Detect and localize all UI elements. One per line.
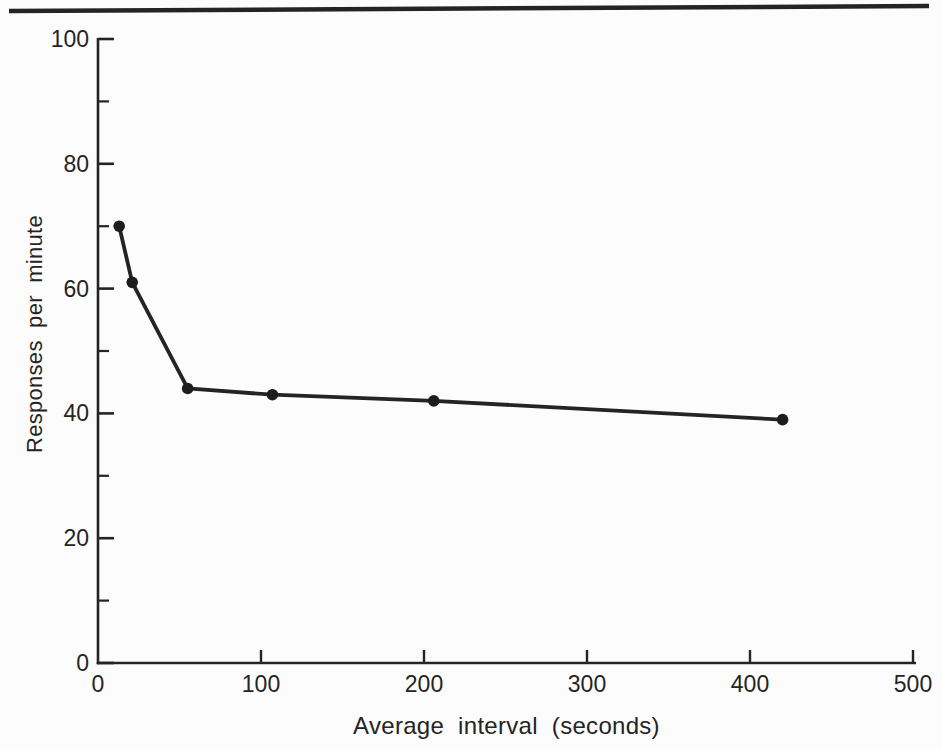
y-tick-label: 60 [63,276,89,302]
x-tick-label: 500 [894,671,932,697]
x-axis-title: Average interval (seconds) [98,712,915,740]
y-tick-label: 80 [63,151,89,177]
data-point [777,414,789,426]
data-point [182,383,194,395]
chart-canvas: 0204060801000100200300400500 [0,0,942,749]
x-tick-label: 200 [405,671,443,697]
data-point [428,395,440,407]
y-tick-label: 0 [76,650,89,676]
y-axis-title: Responses per minute [22,215,48,453]
x-tick-label: 0 [92,671,105,697]
y-tick-label: 40 [63,400,89,426]
data-line [119,226,782,419]
data-point [267,389,279,401]
top-rule-divider [9,6,929,11]
data-point [113,220,125,232]
data-point [126,277,138,289]
x-tick-label: 300 [568,671,606,697]
x-tick-label: 400 [731,671,769,697]
y-tick-label: 20 [63,525,89,551]
y-tick-label: 100 [51,26,89,52]
figure-page: 0204060801000100200300400500 Responses p… [0,0,942,749]
x-tick-label: 100 [242,671,280,697]
